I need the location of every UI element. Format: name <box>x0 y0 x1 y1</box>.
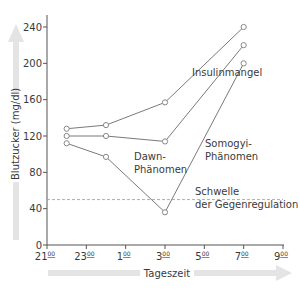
svg-text:Tageszeit: Tageszeit <box>143 268 190 279</box>
x-tick-label: 2300 <box>74 250 95 262</box>
x-tick-label: 2100 <box>35 250 56 262</box>
insulin-label: Insulinmangel <box>192 67 262 78</box>
dawn-label-2: Phänomen <box>134 164 187 175</box>
data-point-marker <box>103 123 108 128</box>
threshold-label-1: Schwelle <box>195 186 239 197</box>
y-ticks: 04080120160200240 <box>23 22 47 251</box>
svg-text:Blutzucker (mg/dl): Blutzucker (mg/dl) <box>10 88 21 180</box>
data-point-marker <box>162 210 167 215</box>
data-point-marker <box>241 24 246 29</box>
series-line <box>67 45 244 141</box>
y-axis-label: Blutzucker (mg/dl) <box>9 88 23 182</box>
threshold-label-2: der Gegenregulation <box>195 199 298 210</box>
x-ticks: 21002300100300500700900 <box>35 245 288 262</box>
data-point-marker <box>103 154 108 159</box>
data-point-marker <box>241 61 246 66</box>
blood-sugar-chart: 04080120160200240 2100230010030050070090… <box>0 0 300 293</box>
x-tick-label: 300 <box>156 250 170 262</box>
x-tick-label: 100 <box>117 250 131 262</box>
data-point-marker <box>162 139 167 144</box>
data-point-marker <box>64 133 69 138</box>
data-point-marker <box>64 141 69 146</box>
y-tick-label: 40 <box>29 203 42 214</box>
data-point-marker <box>64 126 69 131</box>
x-axis-label: Tageszeit <box>140 265 194 281</box>
y-tick-label: 200 <box>23 58 42 69</box>
x-tick-label: 700 <box>235 250 249 262</box>
y-tick-label: 0 <box>36 240 42 251</box>
data-point-marker <box>103 133 108 138</box>
dawn-label-1: Dawn- <box>134 151 166 162</box>
y-tick-label: 120 <box>23 131 42 142</box>
x-tick-label: 500 <box>195 250 209 262</box>
data-point-marker <box>241 43 246 48</box>
x-tick-label: 900 <box>274 250 288 262</box>
y-tick-label: 160 <box>23 94 42 105</box>
y-tick-label: 80 <box>29 167 42 178</box>
y-tick-label: 240 <box>23 22 42 33</box>
data-point-marker <box>162 100 167 105</box>
somogyi-label-1: Somogyi- <box>205 138 252 149</box>
somogyi-label-2: Phänomen <box>205 151 258 162</box>
